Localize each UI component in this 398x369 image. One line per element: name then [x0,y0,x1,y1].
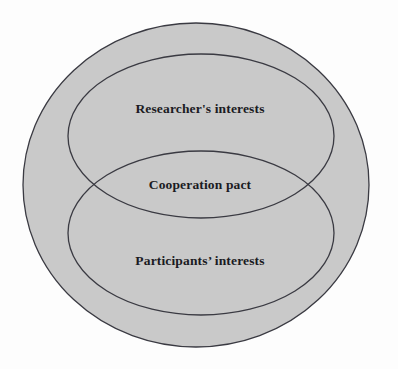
intersection-label-cooperation-pact: Cooperation pact [149,177,252,192]
set-label-participants: Participants’ interests [135,253,264,268]
venn-diagram-canvas: Researcher's interests Cooperation pact … [0,0,398,369]
venn-diagram: Researcher's interests Cooperation pact … [0,0,398,369]
set-label-researchers: Researcher's interests [135,101,264,116]
